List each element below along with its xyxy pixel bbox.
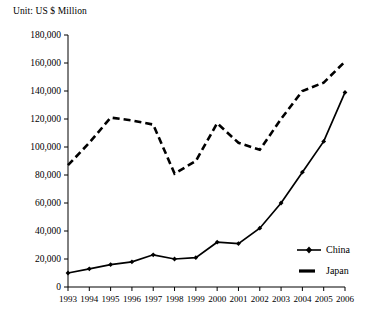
y-axis-tick-label: 160,000 <box>11 58 61 68</box>
legend-item-japan: Japan <box>296 260 350 281</box>
y-axis-tick-label: 40,000 <box>11 226 61 236</box>
data-point-marker <box>66 271 71 276</box>
y-axis-tick-label: 20,000 <box>11 254 61 264</box>
y-axis-tick-label: 60,000 <box>11 198 61 208</box>
data-point-marker <box>130 259 135 264</box>
legend-label-japan: Japan <box>326 265 349 276</box>
data-point-marker <box>87 266 92 271</box>
chart-legend: China Japan <box>296 239 350 281</box>
data-point-marker <box>151 252 156 257</box>
legend-key-solid-diamond-icon <box>296 245 322 255</box>
y-axis-tick-label: 120,000 <box>11 114 61 124</box>
legend-key-dashed-icon <box>296 266 322 276</box>
line-chart: Unit: US $ Million 020,00040,00060,00080… <box>0 0 385 321</box>
series-line-japan <box>68 62 345 174</box>
x-axis-ticks <box>68 287 345 291</box>
y-axis-ticks <box>64 35 68 287</box>
data-point-marker <box>172 257 177 262</box>
y-axis-tick-label: 180,000 <box>11 30 61 40</box>
legend-item-china: China <box>296 239 350 260</box>
legend-label-china: China <box>326 244 350 255</box>
y-axis-tick-label: 80,000 <box>11 170 61 180</box>
y-axis-tick-label: 140,000 <box>11 86 61 96</box>
y-axis-tick-label: 100,000 <box>11 142 61 152</box>
x-axis-tick-label: 2006 <box>333 294 357 304</box>
data-point-marker <box>108 262 113 267</box>
data-point-marker <box>343 90 348 95</box>
y-axis-tick-label: 0 <box>11 282 61 292</box>
